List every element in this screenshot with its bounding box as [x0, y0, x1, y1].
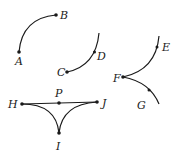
figure-arc-ab: A B	[14, 9, 68, 68]
point-b	[54, 13, 58, 17]
point-p	[57, 101, 61, 105]
figure-arc-cd: C D	[57, 33, 106, 79]
curve-fe	[123, 36, 159, 77]
point-f	[121, 75, 125, 79]
point-g	[148, 89, 151, 92]
point-d	[93, 51, 96, 54]
curve-ji	[59, 102, 97, 133]
point-j	[95, 100, 99, 104]
point-c	[65, 70, 69, 74]
label-h: H	[7, 98, 18, 111]
curves-diagram: A B C D F E G H P J I	[0, 0, 173, 155]
curve-hi	[22, 104, 59, 133]
point-i	[57, 131, 61, 135]
label-b: B	[59, 9, 68, 22]
figure-curves-efg: F E G	[112, 36, 170, 112]
label-a: A	[14, 55, 23, 68]
label-i: I	[55, 140, 61, 153]
label-f: F	[112, 72, 121, 85]
label-p: P	[54, 87, 63, 100]
point-a	[17, 50, 21, 54]
label-j: J	[100, 97, 107, 110]
label-d: D	[96, 50, 106, 63]
point-h	[20, 102, 24, 106]
label-e: E	[161, 41, 170, 54]
label-c: C	[57, 66, 66, 79]
figure-triangle-hji: H P J I	[7, 87, 107, 153]
point-e	[156, 46, 159, 49]
label-g: G	[137, 99, 146, 112]
arc-ab	[19, 15, 56, 52]
